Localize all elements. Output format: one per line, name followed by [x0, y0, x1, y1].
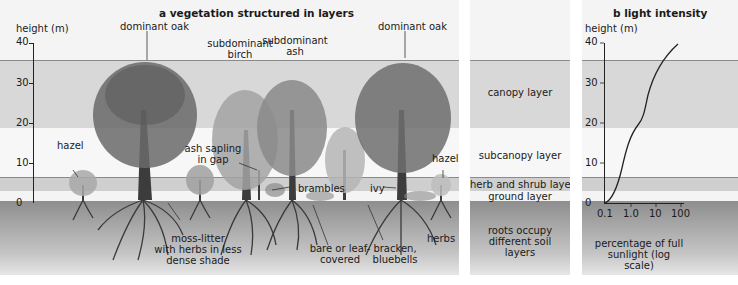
label-line: subdominant: [255, 35, 335, 46]
label-ivy: ivy: [370, 183, 385, 194]
label-canopy-layer: canopy layer: [470, 87, 570, 98]
label-herbs: herbs: [427, 233, 455, 244]
label-line: ash: [255, 46, 335, 57]
label-line: with herbs in less: [148, 244, 248, 255]
label-line: dense shade: [148, 255, 248, 266]
tick-mark-40: [29, 43, 33, 44]
tick-mark-20: [29, 123, 33, 124]
y-tick-10: 10: [16, 157, 29, 168]
y-axis-line: [33, 43, 34, 203]
y-axis-label: height (m): [16, 23, 69, 34]
x-tick-100: 100: [671, 208, 690, 219]
label-line: bluebells: [365, 254, 425, 265]
tick-mark-30: [29, 83, 33, 84]
label-bracken-bluebells: bracken, bluebells: [365, 243, 425, 265]
y-tick-40: 40: [16, 36, 29, 47]
chart-x-label: percentage of full sunlight (log scale): [594, 238, 684, 271]
x-tick-1.0: 1.0: [623, 208, 639, 219]
label-line: bracken,: [365, 243, 425, 254]
y-tick-30: 30: [16, 77, 29, 88]
label-brambles: brambles: [298, 183, 345, 194]
label-ash-sapling: ash sapling in gap: [178, 143, 248, 165]
label-roots: roots occupy different soil layers: [470, 225, 570, 258]
panel-layer-names: canopy layer subcanopy layer herb and sh…: [470, 0, 570, 275]
x-tick-10: 10: [649, 208, 662, 219]
x-tick-0.1: 0.1: [597, 208, 613, 219]
label-dominant-oak-left: dominant oak: [120, 21, 189, 32]
panel-light-intensity: b light intensity height (m) 40 30 20 10…: [582, 0, 738, 275]
label-dominant-oak-right: dominant oak: [378, 21, 447, 32]
label-line: roots occupy: [470, 225, 570, 236]
label-line: ash sapling: [178, 143, 248, 154]
tick-mark-10: [29, 163, 33, 164]
label-line: moss-litter: [148, 233, 248, 244]
y-tick-20: 20: [16, 117, 29, 128]
label-line: different soil: [470, 236, 570, 247]
label-subdominant-ash: subdominant ash: [255, 35, 335, 57]
panel-vegetation-layers: a vegetation structured in layers height…: [0, 0, 459, 275]
label-ground-layer: ground layer: [470, 191, 570, 202]
label-herb-shrub-layer: herb and shrub layer: [470, 179, 570, 190]
label-line: layers: [470, 247, 570, 258]
label-moss-litter: moss-litter with herbs in less dense sha…: [148, 233, 248, 266]
label-subcanopy-layer: subcanopy layer: [470, 150, 570, 161]
label-line: in gap: [178, 154, 248, 165]
panel-a-title: a vegetation structured in layers: [159, 7, 354, 19]
y-tick-0: 0: [16, 197, 22, 208]
light-curve: [582, 0, 738, 275]
label-hazel-left: hazel: [57, 140, 84, 151]
label-hazel-right: hazel: [432, 153, 459, 164]
